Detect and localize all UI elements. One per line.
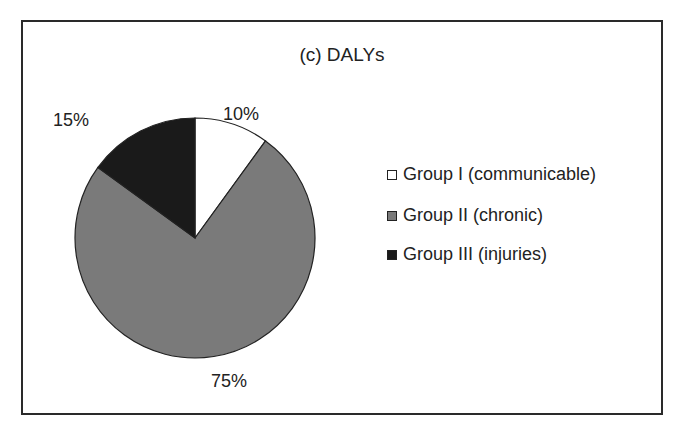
legend-label: Group I (communicable) bbox=[403, 164, 596, 185]
slice-label-group-2: 75% bbox=[211, 371, 247, 392]
legend-swatch-gray bbox=[387, 211, 397, 221]
legend-item-group-2: Group II (chronic) bbox=[387, 205, 543, 226]
legend-label: Group II (chronic) bbox=[403, 205, 543, 226]
legend-swatch-black bbox=[387, 250, 397, 260]
slice-label-group-1: 10% bbox=[223, 104, 259, 125]
pie-chart bbox=[23, 22, 661, 413]
legend-swatch-white bbox=[387, 170, 397, 180]
chart-frame: (c) DALYs 10% 15% 75% Group I (communica… bbox=[21, 20, 663, 415]
slice-label-group-3: 15% bbox=[53, 110, 89, 131]
legend-label: Group III (injuries) bbox=[403, 244, 547, 265]
legend-item-group-3: Group III (injuries) bbox=[387, 244, 547, 265]
legend-item-group-1: Group I (communicable) bbox=[387, 164, 596, 185]
